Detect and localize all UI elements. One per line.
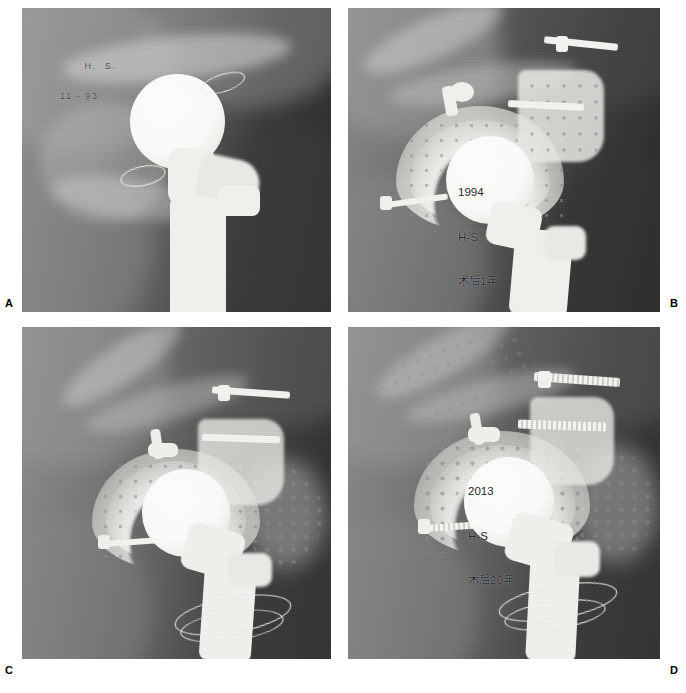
panel-letter-b: B [670, 298, 678, 309]
panel-letter-a: A [5, 298, 13, 309]
panel-b[interactable]: 1994 H-S 术后1年 [348, 8, 660, 312]
panel-d[interactable]: 2013 H-S 术后20年 [348, 327, 660, 659]
panel-d-image [348, 327, 660, 659]
panel-b-image [348, 8, 660, 312]
panel-letter-c: C [5, 665, 13, 676]
panel-c[interactable]: 2004 H-S 术后10年 [22, 327, 331, 659]
panel-c-image [22, 327, 331, 659]
panel-letter-d: D [670, 665, 678, 676]
radiograph-figure: H. S. 11 - 93 A [0, 0, 686, 693]
panel-a-image [22, 8, 331, 312]
panel-a[interactable]: H. S. 11 - 93 [22, 8, 331, 312]
